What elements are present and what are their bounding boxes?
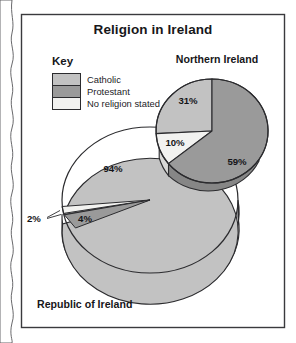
- roi-title: Republic of Ireland: [37, 298, 132, 310]
- legend-swatch-protestant: [53, 86, 81, 98]
- page-title: Religion in Ireland: [94, 22, 213, 37]
- torn-page-edge: [0, 0, 13, 343]
- legend-label-catholic: Catholic: [87, 74, 121, 85]
- legend-label-protestant: Protestant: [87, 86, 130, 97]
- roi-label-protestant: 4%: [78, 213, 92, 224]
- legend-title: Key: [52, 55, 74, 67]
- ni-label-catholic: 31%: [178, 95, 198, 106]
- legend-label-no-religion: No religion stated: [87, 98, 160, 109]
- legend-swatch-catholic: [53, 74, 81, 86]
- ni-title: Northern Ireland: [176, 53, 258, 65]
- roi-label-no-religion: 2%: [27, 213, 41, 224]
- legend-swatch-no-religion: [53, 98, 81, 110]
- ni-label-no-religion: 10%: [165, 137, 185, 148]
- ni-label-protestant: 59%: [227, 156, 247, 167]
- religion-in-ireland-figure: Religion in Ireland Key Catholic Protest…: [0, 0, 296, 343]
- figure-root: Religion in Ireland Key Catholic Protest…: [0, 0, 296, 343]
- roi-label-catholic: 94%: [103, 163, 123, 174]
